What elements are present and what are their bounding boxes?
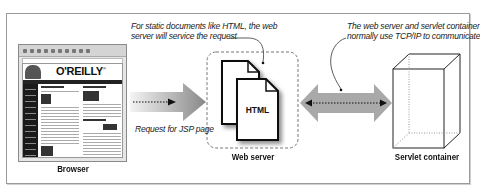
web-server-label: Web server [222, 152, 284, 162]
html-document-label: HTML [246, 105, 270, 115]
request-label: Request for JSP page [135, 124, 214, 134]
servlet-container-label: Servlet container [391, 152, 463, 162]
tcp-ip-double-arrow [300, 84, 392, 122]
tcp-ip-callout-pointer [340, 89, 343, 92]
servlet-container-box [393, 54, 460, 148]
static-docs-callout-line [229, 38, 264, 62]
tcp-ip-callout-line [331, 38, 346, 89]
static-docs-callout-pointer [262, 62, 265, 65]
browser-label: Browser [44, 164, 102, 174]
static-docs-annotation: For static documents like HTML, the web … [131, 21, 277, 41]
tcp-ip-annotation: The web server and servlet container nor… [347, 21, 480, 41]
request-arrow [130, 83, 206, 121]
